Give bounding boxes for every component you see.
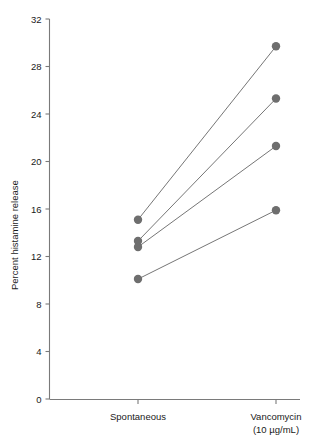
y-tick-group: 048121620242832 [31, 14, 50, 405]
series-line [138, 46, 276, 219]
data-point [134, 275, 142, 283]
series-line [138, 146, 276, 247]
x-category-label-spontaneous: Spontaneous [110, 411, 166, 422]
y-tick-label: 20 [31, 156, 42, 167]
y-tick-label: 24 [31, 109, 42, 120]
x-category-sublabel-vancomycin: (10 µg/mL) [253, 424, 299, 435]
y-tick-label: 28 [31, 61, 42, 72]
data-point [134, 243, 142, 251]
data-point [272, 94, 280, 102]
data-point [272, 142, 280, 150]
data-point [272, 206, 280, 214]
series-group [134, 42, 280, 283]
y-tick-label: 0 [36, 394, 41, 405]
y-tick-label: 4 [36, 346, 41, 357]
data-point [272, 42, 280, 50]
data-point [134, 215, 142, 223]
series-line [138, 210, 276, 279]
x-category-label-vancomycin: Vancomycin [250, 411, 301, 422]
y-tick-label: 32 [31, 14, 42, 25]
series-line [138, 99, 276, 242]
y-tick-label: 12 [31, 251, 42, 262]
y-tick-label: 16 [31, 204, 42, 215]
y-tick-label: 8 [36, 299, 41, 310]
chart-canvas: 048121620242832 Percent histamine releas… [0, 0, 318, 441]
slope-chart: 048121620242832 Percent histamine releas… [0, 0, 318, 441]
y-axis-title: Percent histamine release [9, 180, 20, 290]
